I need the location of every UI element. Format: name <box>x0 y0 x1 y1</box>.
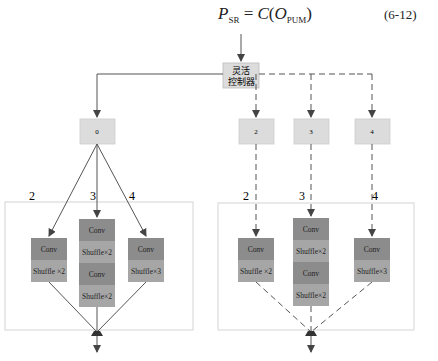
right-edge-label: 4 <box>372 189 378 203</box>
controller-to-node0-edge <box>97 74 223 117</box>
layer-label: Conv <box>364 245 381 254</box>
dashed-control-edges <box>256 74 372 117</box>
left-edge-label: 2 <box>29 189 35 203</box>
layer-label: Shuffle×3 <box>357 267 387 276</box>
layer-label: Conv <box>89 270 106 279</box>
layer-label: Shuffle×2 <box>82 248 112 257</box>
right-edge-label: 2 <box>243 189 249 203</box>
layer-label: Shuffle×2 <box>82 292 112 301</box>
svg-text:0: 0 <box>95 128 99 136</box>
layer-label: Conv <box>138 245 155 254</box>
branch-node-label: 2 <box>254 128 258 136</box>
left-edge-label: 4 <box>129 189 135 203</box>
branch-node-label: 3 <box>309 128 313 136</box>
left-block-3: ConvShuffle×2ConvShuffle×2 <box>79 219 115 307</box>
branch-node-2: 2 <box>239 119 274 144</box>
branch-node-4: 4 <box>355 119 390 144</box>
layer-label: Conv <box>41 245 58 254</box>
left-block-4: ConvShuffle×3 <box>128 238 164 282</box>
right-block-3: ConvShuffle×2ConvShuffle×2 <box>293 218 329 306</box>
left-merge-node <box>91 331 103 336</box>
branch-node-label: 4 <box>370 128 374 136</box>
right-edge-label: 3 <box>299 189 305 203</box>
controller-label-line2: 控制器 <box>228 76 255 87</box>
layer-label: Shuffle×3 <box>131 267 161 276</box>
left-edge-label: 3 <box>90 189 96 203</box>
layer-label: Conv <box>89 226 106 235</box>
layer-label: Shuffle×2 <box>296 247 326 256</box>
controller-label-line1: 灵活 <box>232 65 250 76</box>
right-merge-node <box>305 331 317 336</box>
flexible-controller: 灵活 控制器 <box>223 63 259 88</box>
right-block-4: ConvShuffle×3 <box>354 238 390 282</box>
layer-label: Conv <box>303 225 320 234</box>
branch-node-0: 0 <box>80 119 115 144</box>
layer-label: Shuffle ×2 <box>240 267 272 276</box>
right-block-2: ConvShuffle ×2 <box>238 238 274 282</box>
architecture-diagram: 灵活 控制器 0 234 ConvShuffle ×2ConvShuffle×2… <box>0 0 438 361</box>
layer-label: Conv <box>303 269 320 278</box>
layer-label: Shuffle ×2 <box>33 267 65 276</box>
left-block-2: ConvShuffle ×2 <box>31 238 67 282</box>
layer-label: Conv <box>248 245 265 254</box>
branch-node-3: 3 <box>294 119 329 144</box>
layer-label: Shuffle×2 <box>296 291 326 300</box>
